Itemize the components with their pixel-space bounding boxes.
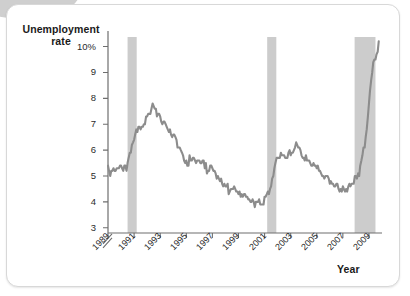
y-axis-tick-label: 9 bbox=[62, 66, 96, 77]
y-axis-tick-label: 5 bbox=[62, 170, 96, 181]
figure-card: Unemployment rate Year 345678910% 198919… bbox=[6, 4, 400, 287]
y-axis-tick-label: 10% bbox=[62, 41, 96, 52]
y-axis-tick-label: 8 bbox=[62, 92, 96, 103]
unemployment-rate-line bbox=[108, 41, 379, 207]
unemployment-rate-chart: Unemployment rate Year 345678910% 198919… bbox=[7, 5, 399, 286]
y-axis-tick-label: 4 bbox=[62, 196, 96, 207]
y-axis-tick-label: 3 bbox=[62, 222, 96, 233]
y-axis-tick-label: 6 bbox=[62, 144, 96, 155]
screenshot-root: Unemployment rate Year 345678910% 198919… bbox=[0, 0, 410, 296]
axis-lines bbox=[108, 31, 382, 233]
y-axis-tick-label: 7 bbox=[62, 118, 96, 129]
y-axis-title-line1: Unemployment bbox=[22, 23, 99, 35]
recession-band bbox=[267, 37, 276, 233]
x-axis-title: Year bbox=[337, 263, 360, 275]
